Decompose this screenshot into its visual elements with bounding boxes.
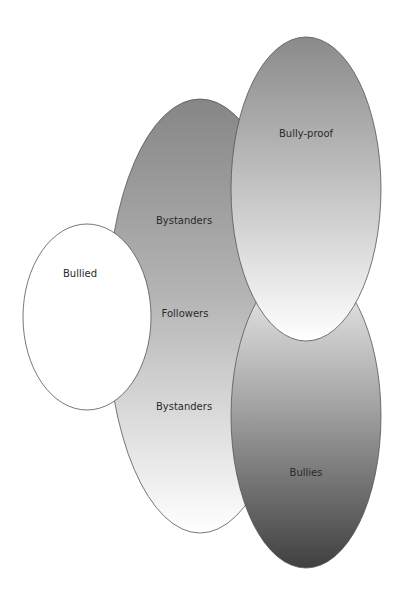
bystanders-bottom-label: Bystanders (156, 401, 212, 412)
bullies-label: Bullies (290, 467, 323, 478)
bully-proof-ellipse (231, 37, 381, 341)
bully-proof-label: Bully-proof (279, 128, 334, 139)
followers-label: Followers (162, 308, 209, 319)
bullied-ellipse (23, 224, 151, 410)
bullying-diagram: Bystanders Followers Bystanders Bullied … (0, 0, 400, 605)
bystanders-top-label: Bystanders (156, 215, 212, 226)
bullied-label: Bullied (63, 268, 97, 279)
